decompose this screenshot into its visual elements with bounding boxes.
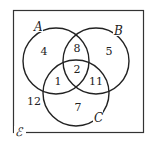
- set-label-c: C: [94, 111, 103, 125]
- region-outside: 12: [27, 95, 41, 108]
- region-a-b-c: 2: [74, 63, 81, 76]
- venn-diagram: ℰ A B C 4 8 5 2 1 11 12 7: [0, 0, 148, 144]
- region-a-b: 8: [74, 42, 81, 55]
- set-label-b: B: [113, 24, 123, 38]
- region-b-c: 11: [89, 75, 103, 88]
- region-a-c: 1: [55, 75, 62, 88]
- region-a-only: 4: [41, 45, 48, 58]
- region-c-only: 7: [75, 101, 82, 114]
- region-b-only: 5: [106, 45, 113, 58]
- set-label-a: A: [33, 20, 43, 34]
